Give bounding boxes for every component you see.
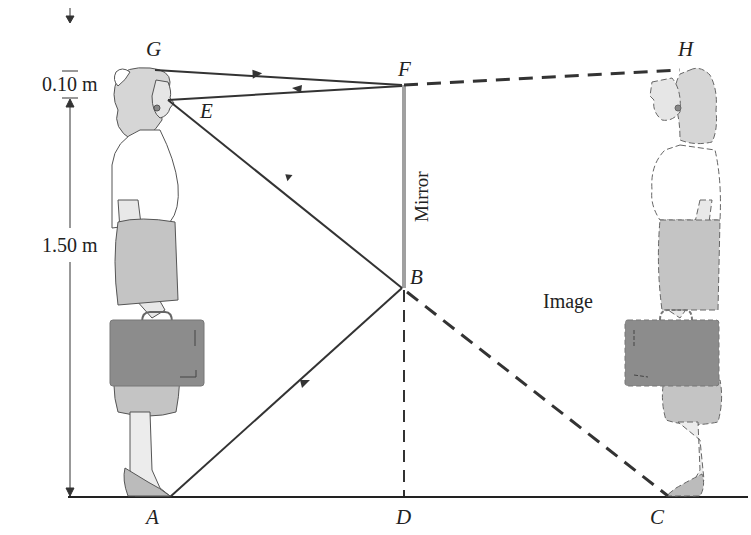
label-D: D: [395, 505, 411, 529]
label-E: E: [199, 99, 213, 123]
label-B: B: [410, 265, 423, 289]
light-rays: [155, 70, 402, 497]
dimension-top-label: 0.10 m: [42, 73, 98, 95]
image-label: Image: [543, 290, 593, 313]
briefcase: [110, 312, 204, 386]
label-G: G: [146, 37, 161, 61]
label-F: F: [397, 57, 411, 81]
mirror-label: Mirror: [411, 171, 432, 222]
mirror-diagram: 0.10 m 1.50 m: [0, 0, 751, 535]
label-C: C: [650, 505, 665, 529]
ray-arrows: [252, 70, 310, 388]
image-briefcase: [625, 310, 719, 386]
label-A: A: [144, 505, 159, 529]
dimension-bottom-label: 1.50 m: [42, 234, 98, 256]
woman-figure: [112, 68, 180, 496]
label-H: H: [677, 37, 695, 61]
virtual-rays: [404, 70, 680, 496]
image-figure: [650, 68, 722, 496]
